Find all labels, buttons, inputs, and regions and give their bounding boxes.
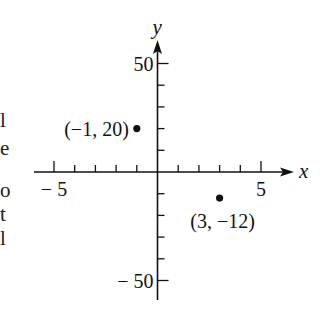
y-tick-label: − 50 <box>117 270 153 292</box>
x-tick-label: − 5 <box>41 178 67 200</box>
data-point <box>133 125 140 132</box>
x-axis-label: x <box>298 159 309 183</box>
data-point <box>216 194 223 201</box>
point-label: (3, −12) <box>190 210 255 233</box>
y-axis-label: y <box>151 15 163 39</box>
x-tick-label: 5 <box>256 178 266 200</box>
point-label: (−1, 20) <box>64 118 129 141</box>
y-tick-label: 50 <box>134 53 154 75</box>
coordinate-plane: − 5550− 50xy(−1, 20)(3, −12) <box>0 0 330 312</box>
